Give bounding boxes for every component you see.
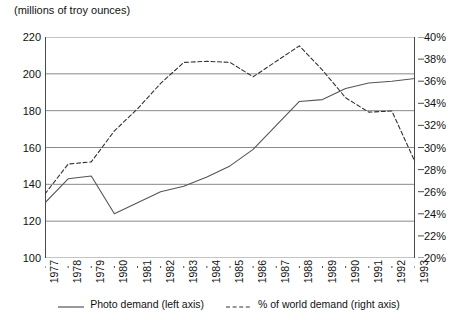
series-layer: [45, 37, 415, 258]
right-axis-tick-label: 36%: [424, 76, 446, 87]
left-axis-tick-label: 200: [7, 68, 41, 79]
right-axis-tick-label: 24%: [424, 208, 446, 219]
right-axis-tick-label: 28%: [424, 164, 446, 175]
x-axis-tick-label: 1983: [188, 260, 199, 283]
left-axis-tick-label: 220: [7, 32, 41, 43]
right-axis-tick-label: 26%: [424, 186, 446, 197]
legend-entry[interactable]: % of world demand (right axis): [226, 299, 400, 310]
left-axis-tick-label: 160: [7, 142, 41, 153]
series-line: [45, 78, 415, 213]
right-axis-tick-label: 32%: [424, 120, 446, 131]
left-axis: 100120140160180200220: [0, 37, 41, 258]
series-line: [45, 46, 415, 194]
left-axis-tick-label: 140: [7, 179, 41, 190]
x-axis-tick-label: 1978: [72, 260, 83, 283]
x-axis-tick-label: 1987: [280, 260, 291, 283]
x-axis-tick-label: 1988: [303, 260, 314, 283]
left-axis-tick-label: 100: [7, 253, 41, 264]
x-axis-tick-label: 1984: [211, 260, 222, 283]
right-axis-tick-label: 22%: [424, 230, 446, 241]
x-axis-tick-label: 1989: [327, 260, 338, 283]
x-axis-tick-label: 1993: [419, 260, 430, 283]
x-axis-tick-label: 1979: [95, 260, 106, 283]
chart-title: (millions of troy ounces): [14, 4, 130, 17]
right-axis-tick-label: 34%: [424, 98, 446, 109]
x-axis-tick-label: 1991: [373, 260, 384, 283]
dashed-line-icon: [226, 301, 252, 309]
x-axis-tick-label: 1985: [234, 260, 245, 283]
left-axis-tick-label: 120: [7, 216, 41, 227]
x-axis-tick-label: 1986: [257, 260, 268, 283]
left-axis-tick-label: 180: [7, 105, 41, 116]
right-axis: 20%22%24%26%28%30%32%34%36%38%40%: [418, 37, 458, 258]
right-axis-tick-label: 30%: [424, 142, 446, 153]
x-axis-tick-label: 1990: [350, 260, 361, 283]
right-axis-tick-label: 40%: [424, 32, 446, 43]
legend-label: Photo demand (left axis): [90, 299, 204, 310]
x-axis-tick-label: 1982: [165, 260, 176, 283]
x-axis: 1977197819791980198119821983198419851986…: [45, 260, 415, 300]
x-axis-tick-label: 1981: [142, 260, 153, 283]
x-axis-tick-label: 1992: [396, 260, 407, 283]
chart-container: (millions of troy ounces) 10012014016018…: [0, 0, 458, 320]
solid-line-icon: [58, 301, 84, 309]
legend-entry[interactable]: Photo demand (left axis): [58, 299, 204, 310]
x-axis-tick-label: 1980: [118, 260, 129, 283]
right-axis-tick-label: 38%: [424, 54, 446, 65]
legend-label: % of world demand (right axis): [258, 299, 400, 310]
x-axis-tick-label: 1977: [49, 260, 60, 283]
chart-legend: Photo demand (left axis)% of world deman…: [0, 299, 458, 310]
